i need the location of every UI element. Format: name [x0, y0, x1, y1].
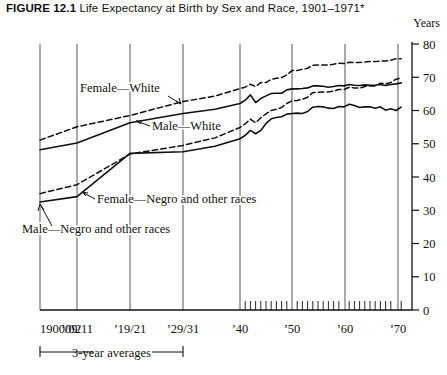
label-female-white: Female—White [80, 81, 160, 95]
y-tick-label-10: 10 [423, 270, 436, 284]
life-expectancy-line-chart: 010203040506070801900/02’09/11’19/21’29/… [0, 0, 447, 375]
y-tick-label-40: 40 [423, 171, 436, 185]
y-tick-label-60: 60 [423, 104, 436, 118]
label-male-negro: Male—Negro and other races [22, 222, 170, 236]
x-tick-label-3: ’29/31 [167, 322, 200, 336]
y-tick-label-80: 80 [423, 38, 436, 52]
x-tick-label-4: ’40 [232, 322, 249, 336]
label-female-negro-leader [82, 192, 95, 199]
figure-container: FIGURE 12.1 Life Expectancy at Birth by … [0, 0, 447, 375]
x-tick-label-7: ’70 [390, 322, 407, 336]
label-female-negro: Female—Negro and other races [97, 192, 256, 206]
label-male-white: Male—White [152, 119, 221, 133]
x-tick-label-1: ’09/11 [61, 322, 93, 336]
y-tick-label-70: 70 [423, 71, 436, 85]
y-tick-label-20: 20 [423, 237, 436, 251]
y-tick-label-50: 50 [423, 137, 436, 151]
label-female-white-leader [168, 96, 181, 104]
x-tick-label-2: ’19/21 [114, 322, 147, 336]
x-tick-label-5: ’50 [284, 322, 301, 336]
label-male-white-leader [136, 121, 150, 126]
three-year-averages-label: 3-year averages [72, 346, 151, 360]
series-annotations: 3-year averagesFemale—WhiteFemale—WhiteM… [22, 81, 256, 360]
y-tick-label-30: 30 [423, 204, 436, 218]
x-tick-label-6: ’60 [337, 322, 354, 336]
y-tick-label-0: 0 [423, 304, 429, 318]
